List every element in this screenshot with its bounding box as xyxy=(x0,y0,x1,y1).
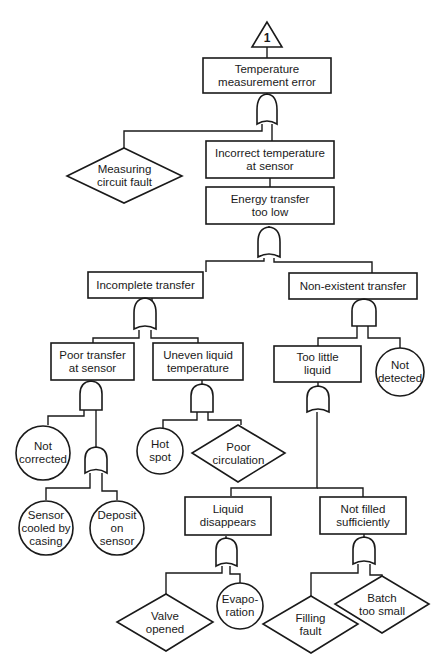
valve-opened-label: Valve opened xyxy=(117,594,213,651)
not-filled-label: Not filled sufficiently xyxy=(320,497,406,534)
or-gate-icon xyxy=(216,538,237,566)
or-gate-icon xyxy=(134,298,156,329)
liquid-disappears-label: Liquid disappears xyxy=(185,497,271,535)
or-gate-icon xyxy=(258,227,280,257)
not-corrected-label: Not corrected xyxy=(16,426,70,480)
too-little-liquid-label: Too little liquid xyxy=(274,346,361,382)
poor-circulation-label: Poor circulation xyxy=(192,425,285,482)
incorrect-temperature-label: Incorrect temperature at sensor xyxy=(206,141,334,178)
or-gate-icon xyxy=(353,537,375,564)
transfer-number: 1 xyxy=(252,30,282,46)
and-gate-icon xyxy=(352,299,376,326)
sensor-cooled-label: Sensor cooled by casing xyxy=(19,501,73,555)
evaporation-label: Evapo- ration xyxy=(217,583,263,629)
non-existent-transfer-label: Non-existent transfer xyxy=(289,273,417,299)
or-gate-icon xyxy=(85,447,107,473)
and-gate-icon xyxy=(80,381,102,410)
incomplete-transfer-label: Incomplete transfer xyxy=(88,272,203,298)
fault-tree-canvas xyxy=(0,0,448,669)
poor-transfer-label: Poor transfer at sensor xyxy=(51,343,134,380)
energy-transfer-label: Energy transfer too low xyxy=(206,187,334,224)
uneven-liquid-label: Uneven liquid temperature xyxy=(153,343,243,380)
or-gate-icon xyxy=(257,94,277,124)
measuring-circuit-label: Measuring circuit fault xyxy=(67,148,182,203)
or-gate-icon xyxy=(307,386,329,412)
not-detected-label: Not detected xyxy=(376,348,424,396)
batch-too-small-label: Batch too small xyxy=(335,576,429,633)
hot-spot-label: Hot spot xyxy=(137,428,183,474)
deposit-sensor-label: Deposit on sensor xyxy=(90,501,144,555)
top-event-label: Temperature measurement error xyxy=(203,58,331,93)
and-gate-icon xyxy=(191,384,213,412)
